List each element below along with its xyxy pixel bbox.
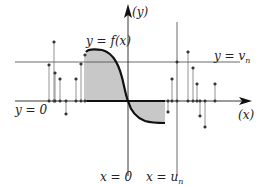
- y-axis-label: (y): [132, 6, 148, 18]
- u-n-label-main: x = u: [146, 170, 178, 184]
- v-n-label-sub: n: [245, 56, 250, 65]
- v-n-label: y = vn: [214, 50, 250, 65]
- zero-line-label: y = 0: [15, 104, 47, 116]
- curve-label: y = f(x): [86, 35, 131, 47]
- u-n-label-sub: n: [178, 177, 183, 185]
- v-n-label-main: y = v: [214, 49, 245, 63]
- x-zero-label: x = 0: [100, 171, 132, 183]
- x-axis-label: (x): [238, 109, 254, 121]
- stems-left: [48, 41, 87, 116]
- function-diagram: [0, 0, 263, 185]
- u-n-label: x = un: [146, 171, 183, 185]
